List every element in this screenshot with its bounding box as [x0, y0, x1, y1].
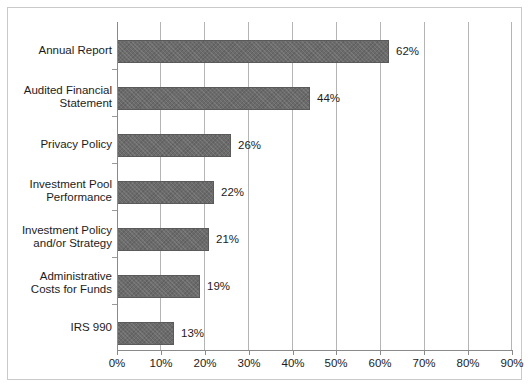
plot-area: 62% 44% 26% 22% 21% 19% 13% — [117, 22, 512, 350]
y-axis-line — [117, 22, 118, 351]
x-axis-tick — [293, 350, 294, 355]
x-axis-tick-label: 0% — [97, 357, 137, 370]
x-axis-tick — [380, 350, 381, 355]
category-label: Investment Policy and/or Strategy — [22, 224, 112, 250]
gridline-60 — [380, 22, 381, 350]
x-axis-tick — [424, 350, 425, 355]
bar — [117, 134, 231, 157]
category-label: IRS 990 — [70, 321, 112, 334]
x-axis-tick-label: 80% — [448, 357, 488, 370]
bar-value-label: 13% — [181, 327, 204, 339]
category-label: Privacy Policy — [40, 138, 112, 151]
x-axis-tick-label: 20% — [185, 357, 225, 370]
bar — [117, 228, 209, 251]
x-axis-tick — [336, 350, 337, 355]
bar — [117, 275, 200, 298]
bar — [117, 181, 214, 204]
x-axis-tick-label: 50% — [316, 357, 356, 370]
category-label: Audited Financial Statement — [24, 84, 112, 110]
bar — [117, 322, 174, 345]
gridline-30 — [248, 22, 249, 350]
bar-value-label: 44% — [317, 92, 340, 104]
gridline-40 — [292, 22, 293, 350]
category-label: Administrative Costs for Funds — [31, 270, 112, 296]
x-axis-tick — [161, 350, 162, 355]
x-axis-tick — [205, 350, 206, 355]
x-axis-tick — [117, 350, 118, 355]
x-axis-tick-label: 30% — [229, 357, 269, 370]
x-axis-tick-label: 60% — [360, 357, 400, 370]
bar — [117, 87, 310, 110]
gridline-70 — [424, 22, 425, 350]
bar-value-label: 19% — [207, 280, 230, 292]
category-label: Investment Pool Performance — [30, 178, 112, 204]
x-axis-tick — [512, 350, 513, 355]
y-axis-category-labels: Annual Report Audited Financial Statemen… — [8, 0, 112, 389]
gridline-90 — [511, 22, 512, 350]
x-axis-tick-label: 70% — [404, 357, 444, 370]
gridline-80 — [468, 22, 469, 350]
bar-value-label: 26% — [238, 139, 261, 151]
x-axis-tick-label: 90% — [492, 357, 531, 370]
bar-value-label: 22% — [221, 186, 244, 198]
x-axis-tick — [249, 350, 250, 355]
gridline-50 — [336, 22, 337, 350]
bar-value-label: 21% — [216, 233, 239, 245]
chart-screenshot: Annual Report Audited Financial Statemen… — [0, 0, 531, 389]
x-axis-tick-label: 40% — [273, 357, 313, 370]
x-axis-tick — [468, 350, 469, 355]
bar — [117, 40, 389, 63]
x-axis-tick-label: 10% — [141, 357, 181, 370]
x-axis-line — [117, 350, 513, 351]
bar-value-label: 62% — [396, 45, 419, 57]
category-label: Annual Report — [38, 44, 112, 57]
